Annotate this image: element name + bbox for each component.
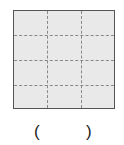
dashed-horizontal-line-2 <box>14 60 114 61</box>
close-parenthesis: ) <box>86 122 92 142</box>
answer-blank[interactable]: ( ) <box>0 122 124 144</box>
dashed-horizontal-line-1 <box>14 35 114 36</box>
dashed-horizontal-line-3 <box>14 85 114 86</box>
square-grid-figure <box>13 10 115 109</box>
open-parenthesis: ( <box>34 122 40 142</box>
